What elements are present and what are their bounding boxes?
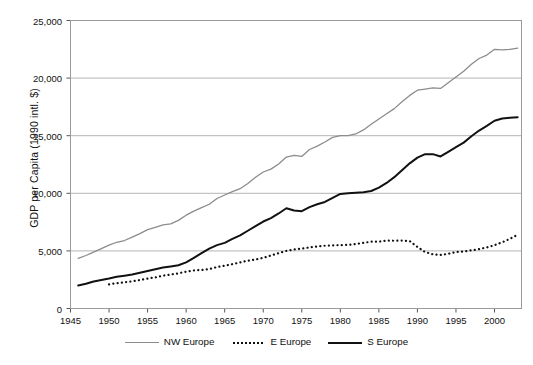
x-tick-label: 1960 [176,315,197,326]
series-line-e-europe [109,235,518,285]
x-tick-label: 1980 [330,315,351,326]
y-tick-label: 20,000 [14,73,62,84]
legend-line-icon-s-europe [328,337,362,346]
series-line-nw-europe [78,48,517,258]
legend-label-s-europe: S Europe [367,336,408,347]
x-axis-ticks [67,21,495,313]
x-tick-label: 1990 [407,315,428,326]
y-tick-label: 5,000 [14,245,62,256]
x-tick-label: 1985 [368,315,389,326]
data-series-group [78,48,517,285]
chart-legend: NW Europe E Europe S Europe [0,336,533,347]
series-line-s-europe [78,117,517,285]
x-tick-label: 2000 [484,315,505,326]
legend-label-nw-europe: NW Europe [164,336,215,347]
plot-canvas [0,0,533,365]
legend-line-icon-e-europe [231,337,265,346]
x-tick-label: 1970 [253,315,274,326]
legend-item-nw-europe: NW Europe [125,336,215,347]
gridlines [71,21,522,251]
x-tick-label: 1995 [445,315,466,326]
x-tick-label: 1975 [291,315,312,326]
y-tick-label: 15,000 [14,130,62,141]
x-tick-label: 1955 [137,315,158,326]
y-tick-label: 10,000 [14,188,62,199]
legend-item-s-europe: S Europe [328,336,408,347]
y-tick-label: 25,000 [14,15,62,26]
x-tick-label: 1950 [98,315,119,326]
x-tick-label: 1945 [60,315,81,326]
legend-line-icon-nw-europe [125,337,159,346]
gdp-per-capita-line-chart: GDP per Capita (1990 intl. $) 25,00020,0… [0,0,533,365]
y-tick-label: 0 [14,303,62,314]
plot-border [71,21,522,309]
legend-item-e-europe: E Europe [231,336,311,347]
x-tick-label: 1965 [214,315,235,326]
legend-label-e-europe: E Europe [270,336,311,347]
